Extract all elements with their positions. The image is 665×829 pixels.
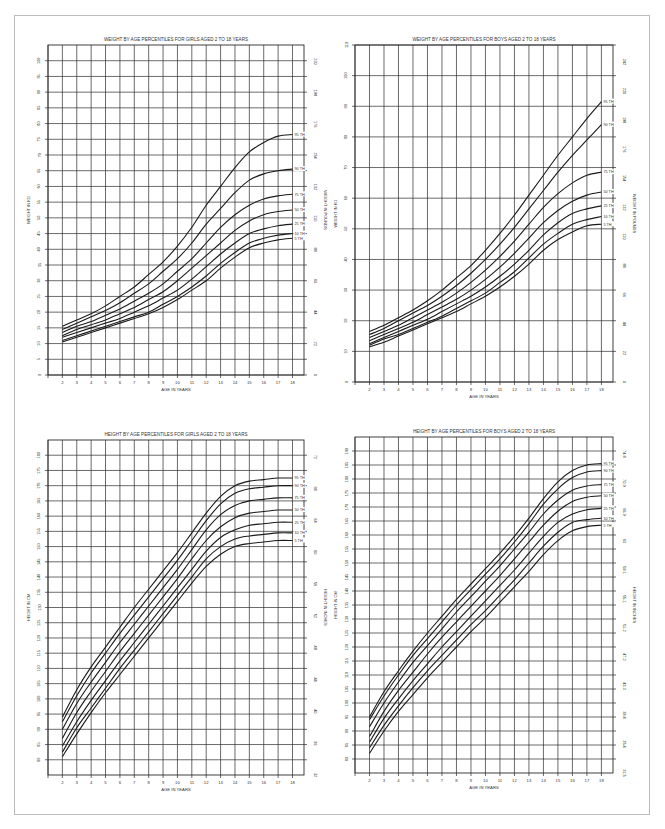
y-right-tick-label: 66.9 (622, 508, 626, 515)
x-tick-label: 10 (483, 778, 488, 783)
y-tick-label: 190 (345, 448, 349, 454)
y-tick-label: 125 (345, 630, 349, 636)
x-tick-label: 6 (426, 778, 429, 783)
y-right-tick-label: 43.3 (622, 682, 626, 689)
x-tick-label: 9 (470, 778, 473, 783)
y-right-tick-label: 47.2 (622, 653, 626, 660)
y-tick-label: 135 (345, 602, 349, 608)
y-tick-label: 120 (345, 644, 349, 650)
x-tick-label: 17 (585, 778, 590, 783)
chart-boys-height: HEIGHT BY AGE PERCENTILES FOR BOYS AGED … (0, 0, 665, 829)
x-tick-label: 12 (512, 778, 517, 783)
percentile-label: 95 TH (603, 462, 614, 466)
y-right-tick-label: 74.8 (622, 450, 626, 457)
percentile-label: 5 TH (603, 524, 611, 528)
x-tick-label: 5 (412, 778, 415, 783)
y-tick-label: 140 (345, 588, 349, 594)
y-right-tick-label: 51.2 (622, 624, 626, 631)
y-tick-label: 185 (345, 462, 349, 468)
y-tick-label: 105 (345, 686, 349, 692)
x-axis-label: AGE IN YEARS (469, 785, 499, 790)
percentile-label: 10 TH (603, 517, 614, 521)
y-tick-label: 155 (345, 546, 349, 552)
y-tick-label: 180 (345, 476, 349, 482)
x-tick-label: 18 (599, 778, 604, 783)
x-tick-label: 13 (527, 778, 532, 783)
y-tick-label: 175 (345, 490, 349, 496)
x-tick-label: 4 (397, 778, 400, 783)
x-tick-label: 3 (383, 778, 386, 783)
percentile-label: 25 TH (603, 507, 614, 511)
y-tick-label: 100 (345, 700, 349, 706)
y-tick-label: 80 (345, 757, 349, 761)
y-right-tick-label: 70.9 (622, 479, 626, 486)
y-tick-label: 115 (345, 658, 349, 664)
x-tick-label: 2 (368, 778, 371, 783)
percentile-label: 75 TH (603, 483, 614, 487)
percentile-label: 90 TH (603, 469, 614, 473)
y-tick-label: 110 (345, 672, 349, 678)
x-tick-label: 8 (455, 778, 458, 783)
y-right-tick-label: 59.1 (622, 566, 626, 573)
percentile-label: 50 TH (603, 494, 614, 498)
y-tick-label: 160 (345, 532, 349, 538)
y-right-tick-label: 39.4 (622, 711, 626, 718)
x-tick-label: 14 (541, 778, 546, 783)
y-right-tick-label: 31.5 (622, 769, 626, 776)
x-tick-label: 15 (556, 778, 561, 783)
y-tick-label: 150 (345, 560, 349, 566)
y-tick-label: 170 (345, 504, 349, 510)
x-tick-label: 7 (441, 778, 444, 783)
y-tick-label: 95 (345, 715, 349, 719)
chart-title: HEIGHT BY AGE PERCENTILES FOR BOYS AGED … (413, 429, 555, 434)
y-right-tick-label: 55.1 (622, 595, 626, 602)
y-axis-label: HEIGHT IN CM (333, 591, 338, 618)
y-right-tick-label: 35.4 (622, 740, 626, 747)
y-tick-label: 165 (345, 518, 349, 524)
y-tick-label: 145 (345, 574, 349, 580)
y-tick-label: 130 (345, 616, 349, 622)
y-right-tick-label: 63 (622, 539, 626, 543)
y-tick-label: 90 (345, 729, 349, 733)
y-tick-label: 85 (345, 743, 349, 747)
x-tick-label: 16 (570, 778, 575, 783)
y-right-axis-label: HEIGHT IN INCHES (632, 587, 637, 624)
x-tick-label: 11 (498, 778, 503, 783)
